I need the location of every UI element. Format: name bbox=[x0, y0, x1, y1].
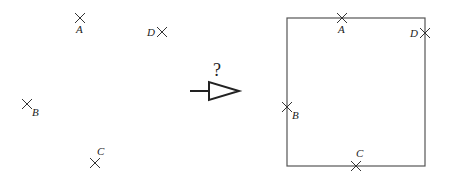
diagram-svg: ADBC ? ADBC bbox=[0, 0, 449, 180]
point-label: D bbox=[409, 27, 418, 39]
point-a-right: A bbox=[337, 13, 347, 35]
point-c-right: C bbox=[351, 147, 364, 171]
point-d-left: D bbox=[146, 26, 167, 38]
point-b-right: B bbox=[282, 102, 299, 121]
transform-arrow: ? bbox=[190, 60, 239, 100]
point-a-left: A bbox=[75, 13, 85, 35]
point-d-right: D bbox=[409, 27, 430, 39]
point-b-left: B bbox=[22, 99, 39, 118]
point-label: A bbox=[75, 23, 83, 35]
question-mark: ? bbox=[213, 60, 221, 80]
scattered-points: ADBC bbox=[22, 13, 167, 168]
point-label: C bbox=[97, 145, 105, 157]
point-label: B bbox=[32, 106, 39, 118]
point-label: B bbox=[292, 109, 299, 121]
arrow-head-icon bbox=[209, 82, 239, 100]
points-on-square: ADBC bbox=[282, 13, 430, 171]
diagram-canvas: ADBC ? ADBC bbox=[0, 0, 449, 180]
point-c-left: C bbox=[90, 145, 105, 168]
point-label: D bbox=[146, 26, 155, 38]
point-label: C bbox=[356, 147, 364, 159]
point-label: A bbox=[337, 23, 345, 35]
square-boundary bbox=[287, 18, 425, 166]
